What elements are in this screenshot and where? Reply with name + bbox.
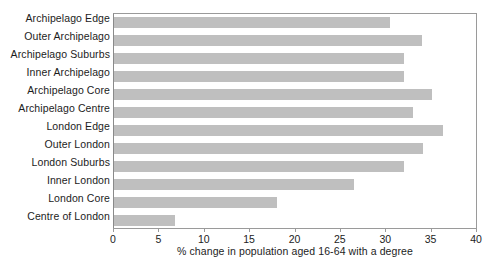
x-axis-tick-label: 5 <box>143 233 173 245</box>
y-axis-label-archipelago-suburbs: Archipelago Suburbs <box>0 49 110 60</box>
bars-layer <box>114 14 476 228</box>
y-axis-label-london-suburbs: London Suburbs <box>0 157 110 168</box>
x-axis-tick-label: 30 <box>370 233 400 245</box>
bar <box>114 125 443 136</box>
bar <box>114 215 175 226</box>
bar <box>114 179 354 190</box>
x-axis-tick-mark <box>385 228 386 232</box>
bar <box>114 35 422 46</box>
x-axis-tick-label: 40 <box>461 233 491 245</box>
x-axis-tick-label: 35 <box>416 233 446 245</box>
y-axis-label-centre-of-london: Centre of London <box>0 211 110 222</box>
bar <box>114 143 423 154</box>
bar <box>114 161 404 172</box>
x-axis-tick-label: 10 <box>189 233 219 245</box>
bar <box>114 71 404 82</box>
x-axis-tick-mark <box>204 228 205 232</box>
y-axis-label-inner-london: Inner London <box>0 175 110 186</box>
y-axis-label-london-core: London Core <box>0 193 110 204</box>
bar <box>114 53 404 64</box>
bar <box>114 17 390 28</box>
x-axis-tick-mark <box>476 228 477 232</box>
bar-chart-figure: Archipelago Edge Outer Archipelago Archi… <box>0 0 497 271</box>
y-axis-label-outer-archipelago: Outer Archipelago <box>0 31 110 42</box>
x-axis-tick-label: 0 <box>98 233 128 245</box>
x-axis-tick-label: 20 <box>280 233 310 245</box>
y-axis-category-labels: Archipelago Edge Outer Archipelago Archi… <box>0 13 110 229</box>
x-axis-tick-mark <box>158 228 159 232</box>
y-axis-label-outer-london: Outer London <box>0 139 110 150</box>
bar <box>114 197 277 208</box>
x-axis-tick-label: 15 <box>234 233 264 245</box>
plot-area <box>113 13 477 229</box>
x-axis-tick-label: 25 <box>325 233 355 245</box>
x-axis-title: % change in population aged 16-64 with a… <box>113 245 477 257</box>
x-axis-tick-mark <box>249 228 250 232</box>
y-axis-label-archipelago-edge: Archipelago Edge <box>0 13 110 24</box>
y-axis-label-london-edge: London Edge <box>0 121 110 132</box>
bar <box>114 107 413 118</box>
y-axis-label-inner-archipelago: Inner Archipelago <box>0 67 110 78</box>
x-axis-tick-mark <box>295 228 296 232</box>
x-axis-tick-mark <box>431 228 432 232</box>
x-axis-tick-mark <box>113 228 114 232</box>
y-axis-label-archipelago-core: Archipelago Core <box>0 85 110 96</box>
bar <box>114 89 432 100</box>
x-axis-tick-mark <box>340 228 341 232</box>
y-axis-label-archipelago-centre: Archipelago Centre <box>0 103 110 114</box>
